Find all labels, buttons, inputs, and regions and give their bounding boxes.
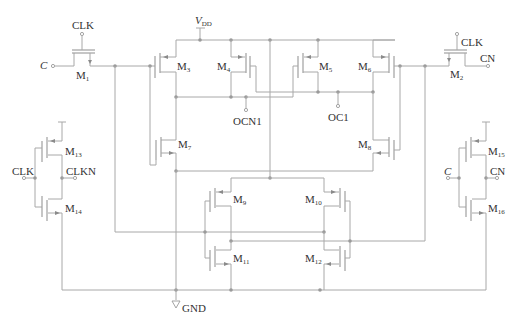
label-m13: M13 xyxy=(65,146,82,159)
label-m9: M9 xyxy=(233,194,246,207)
gnd-label: GND xyxy=(182,303,206,314)
label-m6: M6 xyxy=(358,61,371,74)
transistor-m7 xyxy=(150,97,373,173)
label-m16: M16 xyxy=(488,203,505,216)
central-bias-line xyxy=(268,40,272,180)
output-oc1-label: OC1 xyxy=(328,112,349,123)
inv-cn-label: CN xyxy=(490,166,505,177)
inv-c-label: C xyxy=(444,166,451,177)
input-c-label: C xyxy=(40,60,47,71)
transistor-m8 xyxy=(373,66,400,171)
label-m8: M8 xyxy=(358,139,371,152)
label-m15: M15 xyxy=(488,146,505,159)
label-m7: M7 xyxy=(178,139,191,152)
transistor-m6 xyxy=(373,40,430,92)
transistor-m1 xyxy=(51,32,155,67)
transistor-m10 xyxy=(324,178,350,258)
label-m3: M3 xyxy=(177,61,190,74)
transistor-m9 xyxy=(205,178,324,258)
transistor-m11 xyxy=(205,241,231,290)
clk-m1-label: CLK xyxy=(72,20,94,31)
transistor-m3 xyxy=(155,40,176,97)
node-oc1 xyxy=(316,90,375,107)
vdd-label: VDD xyxy=(195,15,212,28)
label-m14: M14 xyxy=(65,203,82,216)
inv-clkn-label: CLKN xyxy=(66,166,96,177)
label-m12: M12 xyxy=(305,253,322,266)
inv-clk-label: CLK xyxy=(12,166,34,177)
label-m1: M1 xyxy=(76,70,89,83)
clk-m2-label: CLK xyxy=(461,37,483,48)
input-cn-label: CN xyxy=(480,53,495,64)
gnd-rail xyxy=(62,171,486,308)
label-m2: M2 xyxy=(450,69,463,82)
transistor-m5 xyxy=(246,40,318,97)
label-m5: M5 xyxy=(319,61,332,74)
label-m10: M10 xyxy=(305,194,322,207)
vdd-supply xyxy=(176,28,395,42)
circuit-schematic xyxy=(0,0,511,325)
label-m11: M11 xyxy=(233,253,250,266)
output-ocn1-label: OCN1 xyxy=(233,116,262,127)
label-m4: M4 xyxy=(217,61,230,74)
transistor-m4 xyxy=(231,40,373,97)
